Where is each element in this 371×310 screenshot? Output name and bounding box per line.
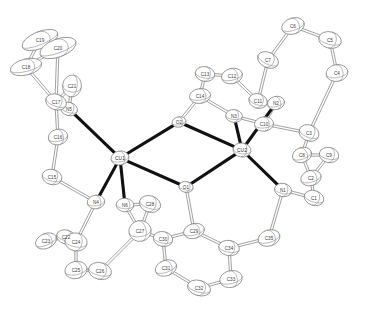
molecular-structure-svg: CU1CU2O2O1N1N2N3N4N5N6C1C2C3C4C5C6C7C8C9… [0, 0, 371, 310]
atom-label-c7: C7 [265, 58, 271, 63]
atom-label-c3: C3 [306, 131, 312, 136]
atom-label-c19: C19 [36, 38, 45, 43]
atom-label-c28: C28 [146, 202, 155, 207]
atom-label-c33: C33 [227, 277, 236, 282]
atom-label-c10: C10 [260, 122, 269, 127]
atom-label-c17: C17 [52, 100, 61, 105]
atom-label-n6: N6 [122, 203, 128, 208]
atom-label-c9: C9 [326, 153, 332, 158]
atom-label-c13: C13 [201, 72, 210, 77]
atom-label-n1: N1 [280, 188, 286, 193]
atom-label-c30: C30 [159, 237, 168, 242]
atom-label-c35: C35 [265, 236, 274, 241]
atom-label-c34: C34 [225, 246, 234, 251]
atom-label-c27: C27 [136, 229, 145, 234]
atom-label-o1: O1 [183, 185, 190, 190]
atom-label-c2: C2 [308, 176, 314, 181]
atom-label-c29: C29 [190, 229, 199, 234]
atom-label-c32: C32 [195, 286, 204, 291]
atom-label-n4: N4 [93, 200, 99, 205]
atom-label-o2: O2 [176, 120, 183, 125]
atom-label-c26: C26 [96, 269, 105, 274]
atom-label-n5: N5 [66, 107, 72, 112]
atom-label-cu1: CU1 [115, 156, 125, 161]
atom-label-c15: C15 [48, 175, 57, 180]
atom-label-c4: C4 [334, 71, 340, 76]
atom-label-c25: C25 [72, 268, 81, 273]
atom-label-c6: C6 [290, 24, 296, 29]
atom-label-c24: C24 [72, 240, 81, 245]
atom-label-c22: C22 [62, 235, 71, 240]
atom-label-n3: N3 [231, 114, 237, 119]
atom-label-c8: C8 [299, 153, 305, 158]
atom-label-n2: N2 [273, 101, 279, 106]
atom-label-c20: C20 [54, 46, 63, 51]
ortep-figure-canvas: CU1CU2O2O1N1N2N3N4N5N6C1C2C3C4C5C6C7C8C9… [0, 0, 371, 310]
atom-label-c1: C1 [311, 196, 317, 201]
atom-label-c5: C5 [327, 38, 333, 43]
atom-label-c21: C21 [68, 84, 77, 89]
atom-label-c16: C16 [54, 135, 63, 140]
atom-label-c23: C23 [42, 239, 51, 244]
atom-label-c18: C18 [22, 65, 31, 70]
atom-label-c12: C12 [228, 74, 237, 79]
atom-label-cu2: CU2 [237, 148, 247, 153]
atom-label-c31: C31 [162, 266, 171, 271]
atom-label-c11: C11 [254, 99, 263, 104]
atom-label-c14: C14 [196, 94, 205, 99]
